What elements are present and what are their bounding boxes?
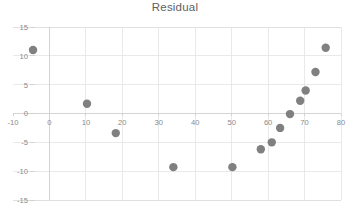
data-point: [286, 110, 294, 118]
data-point: [112, 129, 120, 137]
x-tick-label: 30: [155, 118, 163, 127]
x-tick-label: 10: [82, 118, 90, 127]
data-point: [268, 138, 276, 146]
data-point: [321, 44, 329, 52]
y-tick-label: -10: [17, 167, 28, 176]
data-point: [311, 68, 319, 76]
x-tick-label: 20: [118, 118, 126, 127]
x-axis-tick-labels: -1001020304050607080: [8, 118, 346, 127]
x-tick-label: -10: [8, 118, 19, 127]
x-tick-label: 40: [191, 118, 199, 127]
y-tick-label: -5: [21, 138, 28, 147]
x-tick-label: 70: [300, 118, 308, 127]
data-point: [169, 163, 177, 171]
data-point: [296, 97, 304, 105]
data-point: [83, 99, 91, 107]
residual-scatter-chart: Residual -1001020304050607080 -15-10-505…: [0, 0, 350, 215]
data-points: [29, 44, 330, 172]
data-point: [228, 163, 236, 171]
x-tick-label: 60: [264, 118, 272, 127]
x-tick-label: 80: [337, 118, 345, 127]
y-tick-label: 5: [24, 81, 28, 90]
data-point: [29, 46, 37, 54]
x-tick-label: 0: [47, 118, 51, 127]
x-tick-label: 50: [227, 118, 235, 127]
plot-area: -1001020304050607080 -15-10-5051015: [0, 0, 350, 215]
y-tick-label: 10: [20, 52, 28, 61]
data-point: [257, 145, 265, 153]
data-point: [276, 124, 284, 132]
data-point: [301, 86, 309, 94]
y-tick-label: 0: [24, 109, 28, 118]
y-tick-label: 15: [20, 23, 28, 32]
y-tick-label: -15: [17, 196, 28, 205]
